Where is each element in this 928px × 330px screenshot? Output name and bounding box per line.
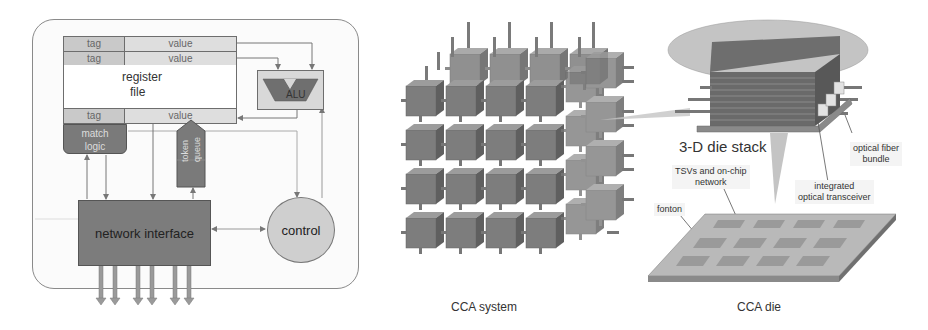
cca-die-caption: CCA die [737, 300, 781, 314]
transceiver-line2: optical transceiver [798, 192, 871, 203]
die-stack-illustration [0, 0, 928, 330]
fonton-annotation: fonton [654, 203, 685, 216]
tsv-line2: network [675, 177, 747, 188]
transceiver-line1: integrated [798, 181, 871, 192]
optical-fiber-line2: bundle [853, 154, 899, 165]
transceiver-annotation: integrated optical transceiver [795, 180, 874, 204]
die-stack-label: 3-D die stack [679, 138, 767, 155]
tsv-line1: TSVs and on-chip [675, 166, 747, 177]
tsv-annotation: TSVs and on-chip network [672, 165, 750, 189]
optical-fiber-line1: optical fiber [853, 143, 899, 154]
optical-fiber-annotation: optical fiber bundle [850, 142, 902, 166]
